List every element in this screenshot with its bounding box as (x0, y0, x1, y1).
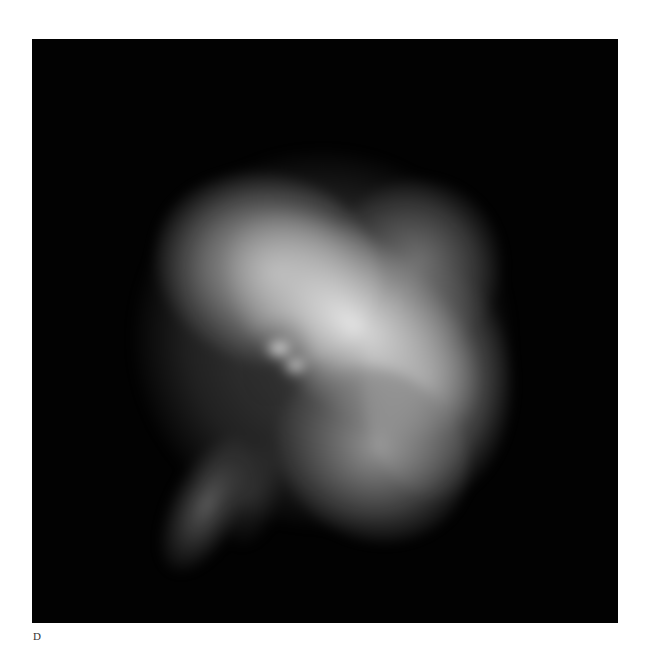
nebula-emission (32, 39, 618, 623)
pulsar-knot (282, 357, 308, 375)
panel-label: D (33, 630, 41, 642)
pulsar-knot (264, 339, 294, 359)
nebula-image (32, 39, 618, 623)
